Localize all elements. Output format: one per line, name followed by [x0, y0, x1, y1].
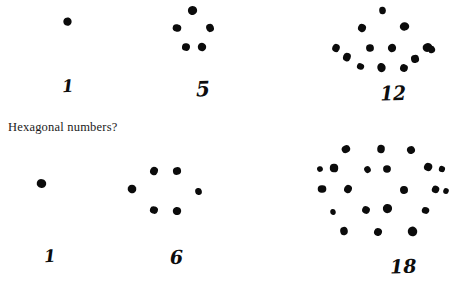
dot	[330, 164, 338, 172]
dot	[400, 186, 409, 194]
dot	[331, 43, 341, 53]
dot	[316, 165, 323, 172]
figure-numeral-6-bottom: 6	[170, 248, 184, 267]
dot	[343, 184, 354, 195]
dot	[406, 225, 417, 236]
dot	[330, 209, 337, 216]
figure-numeral-18-bottom: 18	[390, 257, 417, 277]
dot	[383, 204, 394, 215]
dot	[431, 185, 441, 195]
dot	[365, 43, 374, 52]
dot	[377, 62, 388, 73]
figure-numeral-1-bottom: 1	[44, 248, 57, 266]
dot-cluster	[128, 160, 218, 240]
dot	[197, 42, 208, 53]
dot	[442, 187, 449, 194]
dot-figure-18-bottom	[318, 145, 454, 255]
dot	[421, 206, 431, 215]
dot	[356, 63, 365, 72]
dot	[205, 23, 214, 33]
dot	[427, 45, 436, 54]
dot-figure-6-bottom	[128, 160, 218, 240]
dot	[410, 54, 419, 63]
figure-numeral-12-top: 12	[380, 83, 406, 103]
dot-cluster	[40, 8, 120, 78]
dot-figure-1-top	[40, 8, 120, 78]
dot-cluster	[28, 172, 108, 242]
dot	[383, 165, 391, 172]
hexagonal-numbers-figure: Hexagonal numbers? 15121618	[0, 0, 458, 284]
dot	[379, 7, 386, 15]
dot	[342, 52, 351, 62]
dot	[377, 144, 386, 153]
dot-figure-5-top	[172, 4, 252, 74]
dot	[422, 42, 433, 52]
dot-figure-1-bottom	[28, 172, 108, 242]
dot	[194, 187, 202, 195]
dot	[172, 206, 182, 216]
dot	[357, 23, 368, 34]
dot	[422, 161, 434, 173]
figure-numeral-1-top: 1	[62, 78, 75, 96]
dot	[340, 143, 352, 154]
dot-cluster	[172, 4, 252, 74]
dot	[36, 178, 46, 188]
dot	[172, 167, 181, 176]
dot	[438, 165, 445, 172]
dot	[399, 21, 409, 30]
dot	[182, 43, 191, 52]
dot-cluster	[318, 145, 454, 255]
dot-figure-12-top	[330, 8, 440, 88]
dot	[318, 185, 326, 192]
dot	[149, 205, 158, 214]
dot	[172, 24, 181, 33]
figure-numeral-5-top: 5	[196, 78, 211, 99]
dot	[149, 166, 159, 177]
dot	[361, 205, 371, 215]
dot	[387, 43, 398, 54]
dot	[399, 64, 408, 73]
dot	[186, 4, 197, 15]
caption-hexagonal-numbers: Hexagonal numbers?	[8, 120, 117, 135]
dot	[62, 16, 74, 28]
dot	[339, 226, 348, 236]
dot	[373, 227, 383, 237]
dot	[126, 183, 137, 194]
dot-cluster	[330, 8, 440, 88]
dot	[406, 145, 417, 156]
dot	[363, 165, 372, 175]
